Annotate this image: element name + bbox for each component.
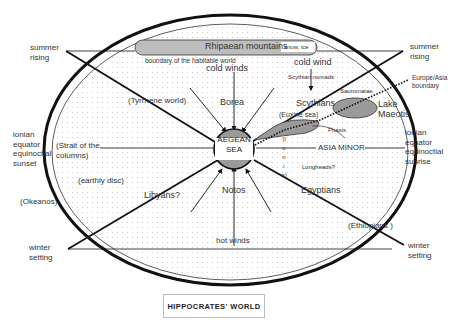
egyptians-label: Egyptians bbox=[301, 185, 341, 195]
equinoctial-sunset-label: ionianequator equinoctialsunset bbox=[13, 130, 51, 168]
asia-minor-label: ASIA MINOR bbox=[318, 143, 365, 153]
winter-setting-right-label: wintersetting bbox=[408, 241, 432, 260]
libyans-label: Libyans? bbox=[144, 190, 180, 200]
rhipaean-mountains-label: Rhipaean mountains bbox=[205, 41, 288, 51]
cold-winds-label: cold winds bbox=[206, 63, 248, 73]
strait-of-columns-label: (Strait of thecolumns) bbox=[56, 141, 100, 160]
scythians-label: Scythians bbox=[296, 98, 335, 108]
equinoctial-sunrise-label: ionianequator equinoctialsunrise bbox=[405, 128, 443, 166]
notos-label: Notos bbox=[222, 185, 246, 195]
cold-wind-label: cold wind bbox=[294, 57, 332, 67]
lake-maeotis bbox=[333, 98, 377, 118]
phasis-label: Phasis bbox=[328, 127, 346, 134]
scythian-nomads-label: Scythian nomads bbox=[288, 74, 334, 81]
longheads-label: Longheads? bbox=[302, 164, 335, 171]
winter-setting-left-label: wintersetting bbox=[29, 243, 53, 262]
borea-label: Borea bbox=[220, 97, 244, 107]
euxine-sea-label: (Euxine sea) bbox=[279, 110, 318, 120]
tyrrhene-world-label: (Tyrrhene world) bbox=[128, 96, 186, 106]
hippocrates-world-diagram: Rhipaean mountains snow, ice boundary of… bbox=[0, 0, 460, 330]
earthly-disc-label: (earthly disc) bbox=[78, 176, 124, 186]
okeanos-label: (Okeanos) bbox=[20, 197, 57, 207]
summer-rising-right-label: summerrising bbox=[410, 42, 439, 61]
lake-maeotis-label: LakeMaeotis bbox=[378, 99, 410, 119]
ethiopians-label: (Ethiopians ) bbox=[348, 221, 393, 231]
hot-winds-label: hot winds bbox=[216, 236, 250, 246]
summer-rising-left-label: summerrising bbox=[30, 43, 59, 62]
aegean-sea-label: AEGEANSEA bbox=[214, 135, 254, 155]
snow-ice-label: snow, ice bbox=[284, 44, 309, 51]
ionia-label: (Ion ia) bbox=[280, 135, 288, 180]
sauromatae-label: Sauromatae bbox=[340, 88, 373, 95]
diagram-title: HIPPOCRATES' WORLD bbox=[163, 294, 265, 318]
europe-asia-boundary-label: Europe/Asiaboundary bbox=[412, 74, 447, 90]
